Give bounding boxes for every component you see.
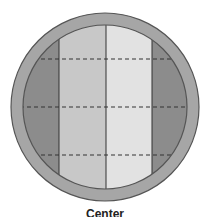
plate-diagram [0, 0, 210, 217]
left-inner-zone [59, 20, 106, 200]
right-inner-zone [106, 20, 152, 200]
diagram-caption: Center [0, 207, 210, 217]
